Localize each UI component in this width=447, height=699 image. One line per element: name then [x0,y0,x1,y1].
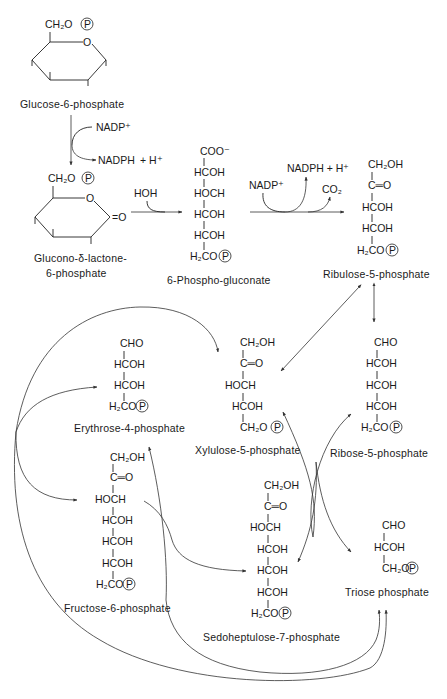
triose-phosphate-structure: CHO HCOH CH₂O P [374,519,418,574]
arrow-outer-to-triose [14,432,386,681]
svg-text:P: P [126,578,133,590]
svg-text:CHO: CHO [374,336,397,348]
svg-text:HCOH: HCOH [232,400,263,412]
svg-text:HCOH: HCOH [366,357,397,369]
nadph-h-plus-product-2: NADPH + H⁺ [287,162,349,174]
gluconolactone-label-line2: 6-phosphate [46,267,107,279]
arrow-to-fructose [16,432,77,500]
fructose-6-phosphate-structure: CH₂OH C═O HOCH HCOH HCOH HCOH H₂CO P [95,451,145,590]
svg-text:C═O: C═O [368,179,391,191]
pentose-phosphate-pathway-diagram: CH₂O P O Glucose-6-phosphate NADP⁺ NADPH… [0,0,447,699]
6-phosphogluconate-label: 6-Phospho-gluconate [167,274,271,286]
svg-text:HCOH: HCOH [257,564,288,576]
ribose-5-phosphate-label: Ribose-5-phosphate [330,447,428,459]
triose-phosphate-label: Triose phosphate [345,586,429,598]
arrow-up-to-erythrose [149,447,166,600]
svg-text:P: P [389,244,396,256]
svg-text:H₂CO: H₂CO [96,578,123,590]
svg-text:HOCH: HOCH [225,379,256,391]
fructose-6-phosphate-label: Fructose-6-phosphate [64,602,171,614]
svg-text:P: P [274,421,281,433]
svg-text:CHO: CHO [120,337,143,349]
glucose-6-phosphate-label: Glucose-6-phosphate [20,98,124,110]
gluconolactone-label-line1: Glucono-δ-lactone- [34,252,127,264]
svg-text:C═O: C═O [264,500,287,512]
ch2o-group: CH₂O [45,18,72,30]
epimerase-arrow [281,287,359,371]
svg-text:HCOH: HCOH [366,400,397,412]
xylulose-5-phosphate-label: Xylulose-5-phosphate [195,444,301,456]
svg-text:H₂CO: H₂CO [190,250,217,262]
svg-text:HCOH: HCOH [374,541,405,553]
ch2o-group: CH₂O [48,172,75,184]
phosphate-label: P [84,18,91,30]
svg-text:P: P [409,562,416,574]
water-reactant: HOH [134,187,157,199]
phosphate-label: P [85,172,92,184]
svg-text:P: P [139,400,146,412]
sedoheptulose-7-phosphate-structure: CH₂OH C═O HOCH HCOH HCOH HCOH H₂CO P [250,479,299,619]
gluconolactone-structure: CH₂O P O =O [35,172,126,244]
svg-text:HCOH: HCOH [102,514,133,526]
carbonyl-oxygen: =O [112,211,126,223]
svg-text:HCOH: HCOH [102,535,133,547]
ring-oxygen: O [86,192,94,204]
svg-text:H₂CO: H₂CO [361,421,388,433]
svg-text:HOCH: HOCH [250,521,281,533]
co2-product: CO₂ [322,183,342,195]
svg-text:HCOH: HCOH [114,379,145,391]
arrow-to-triose [316,462,351,552]
svg-text:HOCH: HOCH [194,187,225,199]
xylulose-5-phosphate-structure: CH₂OH C═O HOCH HCOH CH₂O P [225,336,283,433]
ring-oxygen: O [83,36,91,48]
svg-text:HCOH: HCOH [257,543,288,555]
erythrose-4-phosphate-structure: CHO HCOH HCOH H₂CO P [109,337,148,412]
svg-text:P: P [222,250,229,262]
6-phosphogluconate-structure: COO⁻ HCOH HOCH HCOH HCOH H₂CO P [190,145,231,262]
svg-text:HCOH: HCOH [102,557,133,569]
arrow-to-sedoheptulose [298,462,316,562]
svg-text:HCOH: HCOH [194,229,225,241]
svg-text:CH₂OH: CH₂OH [240,336,275,348]
h-plus-product: + H⁺ [140,154,163,166]
svg-text:CH₂OH: CH₂OH [368,158,403,170]
svg-text:COO⁻: COO⁻ [200,145,230,157]
svg-text:C═O: C═O [240,357,263,369]
svg-text:P: P [393,421,400,433]
svg-text:H₂CO: H₂CO [357,244,384,256]
ribulose-5-phosphate-structure: CH₂OH C═O HCOH HCOH H₂CO P [357,158,403,256]
svg-text:HCOH: HCOH [194,166,225,178]
ribulose-5-phosphate-label: Ribulose-5-phosphate [323,268,430,280]
svg-text:H₂CO: H₂CO [109,400,136,412]
svg-text:HCOH: HCOH [366,379,397,391]
svg-text:H₂CO: H₂CO [251,607,278,619]
glucose-6-phosphate-structure: CH₂O P O [32,18,106,86]
svg-text:P: P [282,607,289,619]
svg-text:HCOH: HCOH [114,358,145,370]
svg-text:HOCH: HOCH [95,493,126,505]
svg-text:HCOH: HCOH [257,586,288,598]
svg-text:CH₂OH: CH₂OH [110,451,145,463]
svg-text:HCOH: HCOH [362,201,393,213]
svg-text:CH₂OH: CH₂OH [264,479,299,491]
nadp-plus-cofactor: NADP⁺ [96,121,131,133]
svg-text:HCOH: HCOH [362,222,393,234]
arrow-up-to-xylulose [283,412,314,537]
svg-text:HCOH: HCOH [194,208,225,220]
erythrose-4-phosphate-label: Erythrose-4-phosphate [74,422,185,434]
svg-text:CH₂O: CH₂O [240,421,267,433]
arrow-up-to-ribose [311,414,351,537]
sedoheptulose-7-phosphate-label: Sedoheptulose-7-phosphate [203,631,340,643]
ribose-5-phosphate-structure: CHO HCOH HCOH HCOH H₂CO P [361,336,402,433]
svg-text:C═O: C═O [110,471,133,483]
svg-text:CHO: CHO [382,519,405,531]
nadph-product: NADPH [98,154,135,166]
nadp-plus-cofactor-2: NADP⁺ [249,179,284,191]
arrow-fructose-sedoheptulose [144,501,246,571]
svg-text:CH₂O: CH₂O [382,562,409,574]
